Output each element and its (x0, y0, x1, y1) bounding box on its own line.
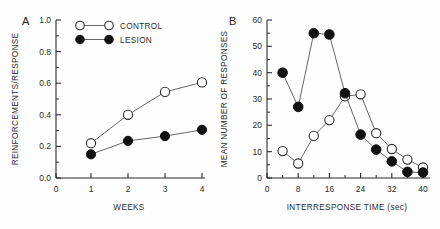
legend-marker-lesion (76, 35, 85, 44)
panel-a-xtick-4: 4 (200, 184, 205, 194)
data-point (340, 88, 350, 98)
panel-a-ytick-5: 1.0 (39, 15, 51, 25)
panel-a-x-ticks (56, 173, 202, 178)
data-point (197, 125, 206, 134)
panel-b-xtick-0: 0 (265, 184, 270, 194)
panel-b-ylabel: MEAN NUMBER OF RESPONSES (220, 30, 229, 167)
panel-a-ytick-3: 0.6 (39, 78, 51, 88)
panel-a-legend: CONTROL LESION (76, 21, 163, 44)
panel-b-x-ticks (267, 173, 423, 178)
data-point (403, 167, 413, 177)
data-point (123, 136, 132, 145)
data-point (418, 168, 428, 178)
panel-b-xtick-2: 16 (325, 184, 335, 194)
panel-a-xtick-3: 3 (163, 184, 168, 194)
panel-a-ytick-1: 0.2 (39, 141, 51, 151)
data-point (325, 116, 334, 125)
panel-b-ytick-1: 10 (253, 147, 263, 157)
panel-b-xtick-1: 8 (296, 184, 301, 194)
panel-a-xlabel: WEEKS (113, 203, 145, 212)
data-point (278, 147, 287, 156)
data-point (160, 87, 169, 96)
panel-a-ytick-4: 0.8 (39, 47, 51, 57)
panel-b-ytick-6: 60 (253, 15, 263, 25)
data-point (387, 144, 396, 153)
panel-b-series-control (278, 90, 428, 172)
panel-b-plot: B 0 10 20 30 (215, 0, 440, 229)
panel-b-xlabel: INTERRESPONSE TIME (sec) (287, 203, 408, 212)
panel-b-ytick-3: 30 (253, 94, 263, 104)
panel-b-ytick-2: 20 (253, 120, 263, 130)
figure-container: A 0.0 0.2 0.4 0.6 0.8 (0, 0, 440, 229)
data-point (387, 157, 397, 167)
legend-marker-control-2 (105, 21, 114, 30)
panel-a-series-lesion (86, 125, 206, 159)
data-point (123, 110, 132, 119)
data-point (403, 155, 412, 164)
legend-marker-control (76, 21, 85, 30)
panel-b-ytick-4: 40 (253, 68, 263, 78)
data-point (325, 30, 335, 40)
data-point (309, 131, 318, 140)
data-point (372, 129, 381, 138)
panel-a-xtick-2: 2 (126, 184, 131, 194)
panel-a-ylabel: REINFORCEMENTS/RESPONSE (11, 32, 20, 165)
data-point (160, 132, 169, 141)
data-point (278, 68, 288, 78)
data-point (293, 102, 303, 112)
data-point (86, 139, 95, 148)
panel-b-y-ticks (267, 20, 272, 178)
data-point (371, 145, 381, 155)
panel-b-xtick-3: 24 (356, 184, 366, 194)
panel-a-xtick-1: 1 (89, 184, 94, 194)
data-point (197, 78, 206, 87)
panel-b-label: B (229, 15, 236, 27)
data-point (356, 90, 365, 99)
panel-a-label: A (22, 15, 30, 27)
panel-b: B 0 10 20 30 (215, 0, 440, 229)
panel-a-ytick-0: 0.0 (39, 173, 51, 183)
data-point (356, 130, 366, 140)
legend-label-control: CONTROL (120, 22, 163, 31)
legend-marker-lesion-2 (105, 35, 114, 44)
data-point (309, 28, 319, 38)
panel-a-xtick-0: 0 (54, 184, 59, 194)
panel-b-xtick-4: 32 (387, 184, 397, 194)
panel-b-ytick-5: 50 (253, 41, 263, 51)
legend-label-lesion: LESION (120, 36, 152, 45)
data-point (294, 159, 303, 168)
data-point (86, 150, 95, 159)
panel-a-y-ticks (56, 20, 61, 178)
panel-a-ytick-2: 0.4 (39, 110, 51, 120)
panel-a-plot: A 0.0 0.2 0.4 0.6 0.8 (0, 0, 215, 229)
panel-a: A 0.0 0.2 0.4 0.6 0.8 (0, 0, 215, 229)
panel-b-ytick-0: 0 (257, 173, 262, 183)
panel-b-xtick-5: 40 (418, 184, 428, 194)
panel-a-series-control (86, 78, 206, 148)
